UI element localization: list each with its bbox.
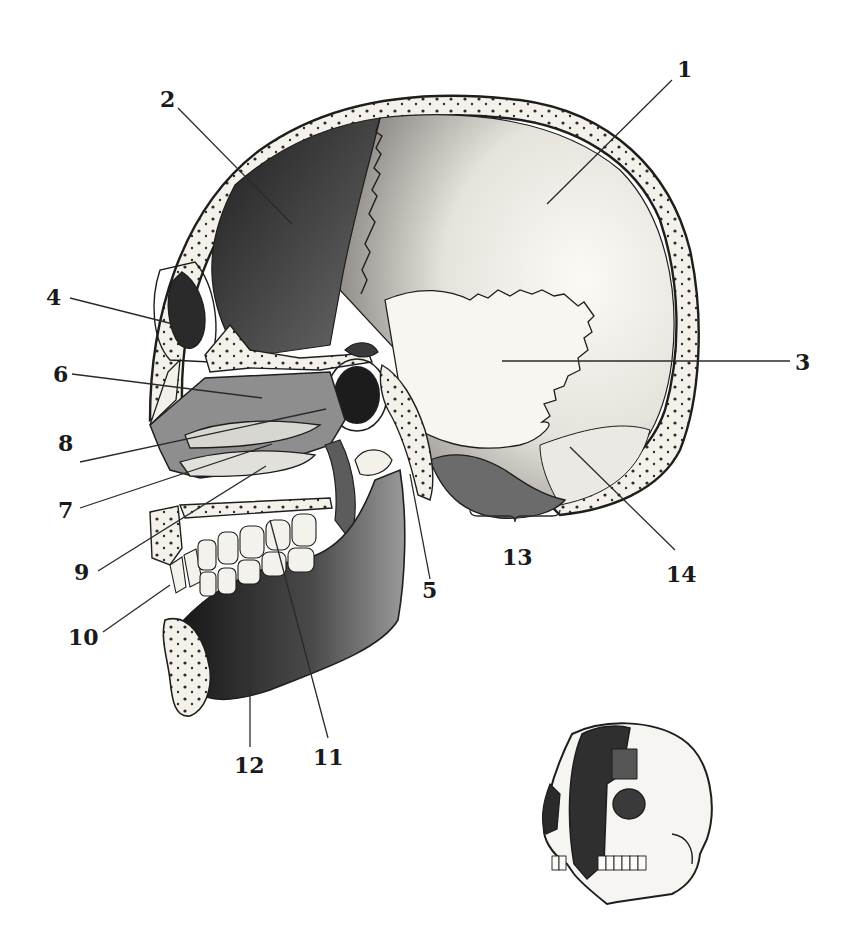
label-2: 2	[160, 86, 175, 112]
label-14: 14	[666, 561, 697, 587]
label-9: 9	[74, 559, 89, 585]
leader-line-4	[70, 298, 177, 325]
leader-line-10	[103, 585, 170, 632]
label-11: 11	[313, 744, 344, 770]
inset-teeth	[552, 856, 646, 870]
inset-orbit	[613, 789, 645, 819]
label-10: 10	[68, 624, 99, 650]
label-7: 7	[58, 497, 73, 523]
label-5: 5	[422, 577, 437, 603]
label-4: 4	[46, 284, 61, 310]
label-3: 3	[795, 349, 810, 375]
label-13: 13	[502, 544, 533, 570]
pterygoid-process	[325, 440, 355, 540]
label-12: 12	[234, 752, 265, 778]
inset-skull	[543, 723, 712, 904]
label-8: 8	[58, 430, 73, 456]
label-1: 1	[677, 56, 692, 82]
inset-left-face	[543, 784, 560, 834]
label-6: 6	[53, 361, 68, 387]
skull-section	[150, 96, 699, 716]
leader-line-9	[98, 466, 266, 571]
skull-diagram: 1234567891011121314	[0, 0, 859, 943]
